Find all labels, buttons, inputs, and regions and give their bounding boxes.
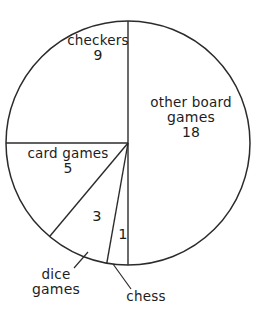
slice-value-dice-games: 3 — [89, 209, 105, 225]
slice-label-chess: chess — [119, 289, 173, 304]
slice-label-checkers-name: checkers — [67, 32, 129, 48]
slice-label-card-games: card games 5 — [18, 146, 118, 176]
leader-line-chess — [113, 264, 131, 289]
slice-label-checkers-value: 9 — [58, 48, 138, 63]
slice-label-other-board-games: other board games 18 — [141, 95, 241, 140]
slice-label-card-games-name: card games — [27, 145, 108, 161]
slice-label-other-board-games-value: 18 — [141, 125, 241, 140]
slice-label-other-board-games-line2: games — [141, 110, 241, 125]
slice-label-dice-games-line1: dice — [42, 266, 71, 282]
slice-value-chess: 1 — [117, 227, 129, 243]
pie-chart-figure: checkers 9 other board games 18 card gam… — [0, 0, 257, 314]
slice-label-dice-games-line2: games — [21, 282, 91, 297]
slice-label-dice-games: dice games — [21, 267, 91, 297]
slice-label-other-board-games-line1: other board — [150, 94, 231, 110]
leader-line-dice-games — [74, 252, 88, 268]
slice-label-checkers: checkers 9 — [58, 33, 138, 63]
slice-label-card-games-value: 5 — [18, 161, 118, 176]
